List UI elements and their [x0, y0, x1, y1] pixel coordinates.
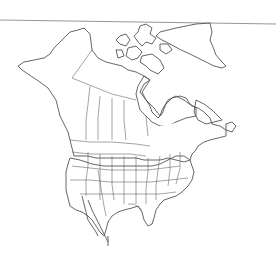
- canada-borders: [70, 50, 150, 146]
- mexico-outline: [82, 196, 108, 246]
- north-america-map: [0, 0, 276, 257]
- greenland: [156, 23, 226, 68]
- frame-line: [0, 20, 276, 24]
- range-map: [0, 0, 276, 257]
- us-state-borders: [70, 152, 188, 216]
- newfoundland: [226, 122, 236, 132]
- outside-range-northeast: [148, 120, 210, 156]
- labrador: [194, 100, 222, 124]
- year-round-range-zone: [66, 156, 194, 236]
